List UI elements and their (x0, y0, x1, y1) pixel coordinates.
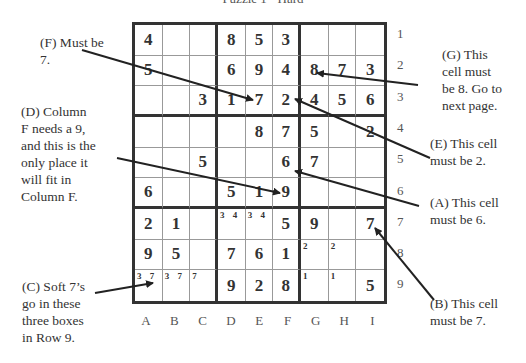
cell-value: 4 (281, 60, 290, 80)
cell-value: 6 (366, 90, 375, 110)
cell-value: 5 (144, 60, 153, 80)
cell-f8[interactable]: 1 (273, 240, 301, 271)
row-label: 3 (397, 89, 404, 105)
cell-g3[interactable]: 4 (301, 86, 329, 117)
cell-b1[interactable] (163, 25, 191, 56)
cell-i1[interactable] (356, 25, 384, 56)
cell-d1[interactable]: 8 (218, 25, 246, 56)
annotation-a-line: must be 6. (430, 211, 499, 228)
cell-b8[interactable]: 5 (163, 240, 191, 271)
cell-value: 9 (281, 182, 290, 202)
cell-h5[interactable] (329, 148, 357, 179)
cell-value: 7 (366, 214, 375, 234)
cell-g1[interactable] (301, 25, 329, 56)
cell-i3[interactable]: 6 (356, 86, 384, 117)
cell-c6[interactable] (190, 178, 218, 209)
cell-e3[interactable]: 7 (246, 86, 274, 117)
cell-b9[interactable]: 3 7 (163, 270, 191, 301)
cell-a3[interactable] (135, 86, 163, 117)
cell-i5[interactable] (356, 148, 384, 179)
cell-f3[interactable]: 2 (273, 86, 301, 117)
cell-b4[interactable] (163, 117, 191, 148)
cell-b5[interactable] (163, 148, 191, 179)
cell-g7[interactable]: 9 (301, 209, 329, 240)
cell-h4[interactable] (329, 117, 357, 148)
cell-d4[interactable] (218, 117, 246, 148)
cell-e5[interactable] (246, 148, 274, 179)
cell-g9[interactable]: 1 (301, 270, 329, 301)
cell-value: 6 (144, 182, 153, 202)
cell-i2[interactable]: 3 (356, 56, 384, 87)
row-label: 5 (397, 151, 404, 167)
annotation-a-line: (A) This cell (430, 194, 499, 211)
cell-g8[interactable]: 2 (301, 240, 329, 271)
cell-c7[interactable] (190, 209, 218, 240)
cell-d6[interactable]: 5 (218, 178, 246, 209)
cell-e9[interactable]: 2 (246, 270, 274, 301)
cell-a6[interactable]: 6 (135, 178, 163, 209)
cell-f4[interactable]: 7 (273, 117, 301, 148)
cell-e4[interactable]: 8 (246, 117, 274, 148)
cell-a9[interactable]: 3 7 (135, 270, 163, 301)
cell-d3[interactable]: 1 (218, 86, 246, 117)
cell-h3[interactable]: 5 (329, 86, 357, 117)
cell-h7[interactable] (329, 209, 357, 240)
cell-h8[interactable]: 2 (329, 240, 357, 271)
cell-e7[interactable]: 3 4 (246, 209, 274, 240)
cell-g5[interactable]: 7 (301, 148, 329, 179)
cell-c3[interactable]: 3 (190, 86, 218, 117)
cell-b7[interactable]: 1 (163, 209, 191, 240)
cell-c8[interactable] (190, 240, 218, 271)
cell-f5[interactable]: 6 (273, 148, 301, 179)
sudoku-grid: 48535694873317245687525676519213 43 4597… (132, 22, 387, 304)
cell-e1[interactable]: 5 (246, 25, 274, 56)
cell-c9[interactable]: 7 (190, 270, 218, 301)
column-label: F (278, 313, 298, 329)
cell-h1[interactable] (329, 25, 357, 56)
cell-a8[interactable]: 9 (135, 240, 163, 271)
cell-e8[interactable]: 6 (246, 240, 274, 271)
cell-g6[interactable] (301, 178, 329, 209)
cell-f9[interactable]: 8 (273, 270, 301, 301)
cell-value: 5 (281, 214, 290, 234)
cell-a1[interactable]: 4 (135, 25, 163, 56)
annotation-d-line: will fit in (21, 171, 96, 188)
cell-a2[interactable]: 5 (135, 56, 163, 87)
cell-e6[interactable]: 1 (246, 178, 274, 209)
cell-g2[interactable]: 8 (301, 56, 329, 87)
cell-value: 8 (227, 30, 236, 50)
cell-d7[interactable]: 3 4 (218, 209, 246, 240)
cell-f1[interactable]: 3 (273, 25, 301, 56)
cell-c4[interactable] (190, 117, 218, 148)
cell-a4[interactable] (135, 117, 163, 148)
cell-i7[interactable]: 7 (356, 209, 384, 240)
cell-value: 2 (281, 90, 290, 110)
cell-f2[interactable]: 4 (273, 56, 301, 87)
cell-candidates: 3 4 (248, 210, 268, 220)
cell-d5[interactable] (218, 148, 246, 179)
cell-f6[interactable]: 9 (273, 178, 301, 209)
cell-h2[interactable]: 7 (329, 56, 357, 87)
cell-b2[interactable] (163, 56, 191, 87)
cell-f7[interactable]: 5 (273, 209, 301, 240)
cell-i8[interactable] (356, 240, 384, 271)
cell-d8[interactable]: 7 (218, 240, 246, 271)
cell-d9[interactable]: 9 (218, 270, 246, 301)
cell-c5[interactable]: 5 (190, 148, 218, 179)
cell-i9[interactable]: 5 (356, 270, 384, 301)
cell-value: 9 (310, 214, 319, 234)
cell-i4[interactable]: 2 (356, 117, 384, 148)
cell-d2[interactable]: 6 (218, 56, 246, 87)
cell-a7[interactable]: 2 (135, 209, 163, 240)
cell-h9[interactable]: 1 (329, 270, 357, 301)
cell-a5[interactable] (135, 148, 163, 179)
cell-value: 9 (227, 276, 236, 296)
cell-c1[interactable] (190, 25, 218, 56)
cell-g4[interactable]: 5 (301, 117, 329, 148)
cell-i6[interactable] (356, 178, 384, 209)
cell-e2[interactable]: 9 (246, 56, 274, 87)
cell-b3[interactable] (163, 86, 191, 117)
cell-h6[interactable] (329, 178, 357, 209)
cell-b6[interactable] (163, 178, 191, 209)
cell-c2[interactable] (190, 56, 218, 87)
